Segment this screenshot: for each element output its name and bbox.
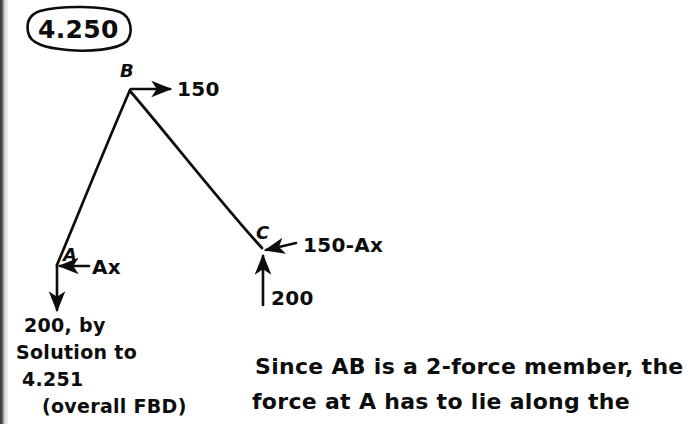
force-a-note-line-3: 4.251 (22, 368, 84, 390)
force-150-ax-arrow (266, 243, 296, 250)
force-a-note-line-2: Solution to (16, 341, 137, 363)
node-a-label: A (61, 244, 77, 265)
force-a-note-group: 200, by Solution to 4.251 (overall FBD) (16, 314, 187, 417)
explanation-group: Since AB is a 2-force member, the force … (252, 354, 684, 414)
force-a-note-line-4: (overall FBD) (42, 395, 187, 417)
problem-number-group: 4.250 (28, 7, 131, 51)
notebook-page: 4.250 B 150 A Ax C 150-Ax 200 2 (0, 0, 692, 424)
node-c-group: C 150-Ax 200 (256, 222, 383, 310)
force-150-ax-label: 150-Ax (303, 233, 383, 257)
explanation-line-1: Since AB is a 2-force member, the (255, 354, 684, 379)
handwritten-ink-layer: 4.250 B 150 A Ax C 150-Ax 200 2 (0, 0, 692, 424)
explanation-line-2: force at A has to lie along the (252, 389, 630, 414)
node-c-label: C (256, 222, 270, 243)
node-b-label: B (120, 60, 134, 81)
force-c-200-label: 200 (271, 286, 314, 310)
force-150-label: 150 (177, 77, 220, 101)
force-ax-label: Ax (92, 255, 121, 279)
problem-number-text: 4.250 (38, 15, 119, 44)
force-a-note-line-1: 200, by (24, 314, 106, 336)
member-bc (130, 91, 262, 248)
member-ba (57, 90, 130, 265)
node-a-group: A Ax (57, 244, 121, 310)
